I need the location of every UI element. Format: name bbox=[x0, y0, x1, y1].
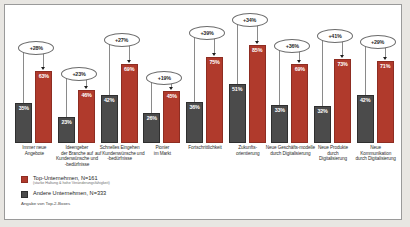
bar-value-label: 85% bbox=[250, 47, 265, 53]
chart-frame: 35%63%+28%23%46%+23%42%69%+27%26%45%+19%… bbox=[4, 4, 402, 220]
bar-value-label: 23% bbox=[59, 119, 74, 125]
delta-callout: +27% bbox=[104, 33, 140, 47]
bar-value-label: 33% bbox=[272, 107, 287, 113]
plot-area: 35%63%+28%23%46%+23%42%69%+27%26%45%+19%… bbox=[13, 11, 397, 143]
bar-value-label: 71% bbox=[378, 63, 393, 69]
bar-value-label: 51% bbox=[230, 86, 245, 92]
category-label: Neue Kommunikation durch Digitalisierung bbox=[350, 145, 401, 162]
bar-andere-unternehmen: 51% bbox=[229, 84, 246, 143]
bar-value-label: 35% bbox=[16, 105, 31, 111]
delta-callout: +39% bbox=[189, 26, 225, 40]
callout-arrow-icon bbox=[41, 67, 45, 70]
bar-top-unternehmen: 85% bbox=[249, 45, 266, 143]
callout-leader-line bbox=[23, 47, 24, 103]
legend-sublabel-top-unternehmen: (starke Haltung & hohe Veränderungsfähig… bbox=[33, 181, 110, 185]
bar-top-unternehmen: 71% bbox=[377, 61, 394, 143]
bar-andere-unternehmen: 23% bbox=[58, 117, 75, 143]
callout-leader-line bbox=[365, 41, 366, 95]
callout-leader-line bbox=[237, 19, 238, 84]
callout-arrow-icon bbox=[212, 53, 216, 56]
legend-item-andere: Andere Unternehmen, N=333 bbox=[21, 190, 321, 201]
callout-arrow-icon bbox=[297, 60, 301, 63]
legend-item-top: Top-Unternehmen, N=161 (starke Haltung &… bbox=[21, 175, 321, 186]
legend-swatch-top-unternehmen bbox=[21, 176, 28, 183]
bar-group: 35%63% bbox=[15, 11, 53, 143]
callout-leader-line bbox=[194, 32, 195, 102]
delta-callout: +41% bbox=[317, 29, 353, 43]
bar-top-unternehmen: 63% bbox=[35, 71, 52, 143]
bar-top-unternehmen: 69% bbox=[121, 64, 138, 143]
delta-callout: +34% bbox=[232, 13, 268, 27]
legend-label-andere-unternehmen: Andere Unternehmen, N=333 bbox=[33, 190, 106, 197]
bar-top-unternehmen: 45% bbox=[163, 91, 180, 143]
bar-group: 42%71% bbox=[357, 11, 395, 143]
callout-leader-line bbox=[322, 35, 323, 106]
bar-andere-unternehmen: 32% bbox=[314, 106, 331, 143]
bar-top-unternehmen: 73% bbox=[334, 59, 351, 143]
delta-callout: +29% bbox=[360, 35, 396, 49]
bar-value-label: 73% bbox=[335, 61, 350, 67]
bar-top-unternehmen: 69% bbox=[291, 64, 308, 143]
callout-leader-line bbox=[109, 39, 110, 95]
callout-leader-line bbox=[279, 45, 280, 105]
bar-andere-unternehmen: 42% bbox=[357, 95, 374, 143]
callout-leader-line bbox=[66, 73, 67, 117]
legend-swatch-andere-unternehmen bbox=[21, 191, 28, 198]
bar-top-unternehmen: 75% bbox=[206, 57, 223, 143]
callout-arrow-icon bbox=[340, 55, 344, 58]
bar-group: 33%69% bbox=[271, 11, 309, 143]
callout-arrow-icon bbox=[84, 86, 88, 89]
bar-andere-unternehmen: 35% bbox=[15, 103, 32, 143]
bar-value-label: 26% bbox=[144, 115, 159, 121]
bar-value-label: 63% bbox=[36, 73, 51, 79]
callout-arrow-icon bbox=[383, 57, 387, 60]
chart-legend: Top-Unternehmen, N=161 (starke Haltung &… bbox=[21, 175, 321, 201]
delta-callout: +23% bbox=[61, 67, 97, 81]
bar-value-label: 69% bbox=[292, 66, 307, 72]
bar-andere-unternehmen: 33% bbox=[271, 105, 288, 143]
callout-arrow-icon bbox=[255, 41, 259, 44]
bar-value-label: 69% bbox=[122, 66, 137, 72]
bar-value-label: 36% bbox=[187, 104, 202, 110]
bar-group: 51%85% bbox=[229, 11, 267, 143]
bar-value-label: 42% bbox=[358, 97, 373, 103]
bar-top-unternehmen: 46% bbox=[78, 90, 95, 143]
bar-andere-unternehmen: 36% bbox=[186, 102, 203, 143]
bar-value-label: 42% bbox=[102, 97, 117, 103]
callout-arrow-icon bbox=[127, 60, 131, 63]
callout-arrow-icon bbox=[169, 87, 173, 90]
bar-group: 42%69% bbox=[101, 11, 139, 143]
chart-footnote: Angabe von Top-2-Boxes bbox=[21, 201, 70, 207]
bar-value-label: 45% bbox=[164, 93, 179, 99]
bar-andere-unternehmen: 42% bbox=[101, 95, 118, 143]
bar-value-label: 32% bbox=[315, 108, 330, 114]
bar-andere-unternehmen: 26% bbox=[143, 113, 160, 143]
bar-value-label: 46% bbox=[79, 92, 94, 98]
bar-value-label: 75% bbox=[207, 59, 222, 65]
